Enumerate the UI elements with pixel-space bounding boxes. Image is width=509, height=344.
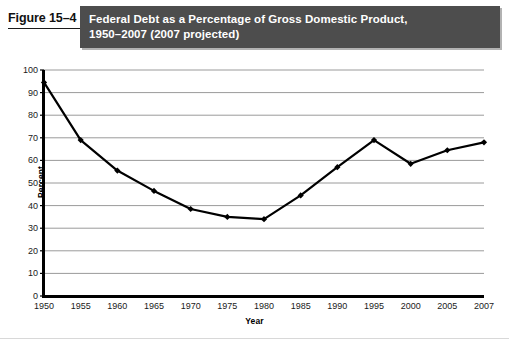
gridlines	[44, 70, 484, 273]
y-tick-label: 0	[33, 291, 38, 301]
x-tick-label: 1960	[107, 301, 127, 311]
y-tick-label: 20	[28, 246, 38, 256]
y-tick-label: 90	[28, 88, 38, 98]
x-tick-label: 1975	[217, 301, 237, 311]
y-tick-label: 30	[28, 223, 38, 233]
figure-title-line-1: Federal Debt as a Percentage of Gross Do…	[89, 13, 407, 25]
x-tick-label: 1995	[364, 301, 384, 311]
data-point-marker	[481, 139, 487, 145]
x-tick-label: 1955	[71, 301, 91, 311]
x-axis-label: Year	[0, 316, 509, 326]
figure-title: Federal Debt as a Percentage of Gross Do…	[89, 12, 494, 42]
figure-title-bar: Federal Debt as a Percentage of Gross Do…	[80, 6, 500, 48]
line-chart: 0102030405060708090100 19501955196019651…	[0, 56, 509, 344]
y-tick-label: 100	[23, 65, 38, 75]
figure-container: Figure 15–4 Federal Debt as a Percentage…	[0, 0, 509, 344]
y-tick-label: 80	[28, 110, 38, 120]
data-point-marker	[224, 214, 230, 220]
footer-divider	[0, 338, 509, 339]
figure-header: Figure 15–4 Federal Debt as a Percentage…	[0, 0, 509, 56]
y-axis-label: Percent	[36, 147, 46, 217]
x-tick-label: 2005	[437, 301, 457, 311]
figure-number-label: Figure 15–4	[8, 11, 80, 26]
y-tick-label: 10	[28, 268, 38, 278]
x-tick-label: 2007	[474, 301, 494, 311]
figure-label-underline	[8, 28, 80, 29]
x-tick-label: 1970	[181, 301, 201, 311]
x-tick-label: 1990	[327, 301, 347, 311]
x-tick-label: 1980	[254, 301, 274, 311]
x-tick-label: 2000	[401, 301, 421, 311]
figure-label-block: Figure 15–4	[8, 11, 80, 29]
data-point-marker	[444, 147, 450, 153]
x-tick-label: 1950	[34, 301, 54, 311]
figure-title-line-2: 1950–2007 (2007 projected)	[89, 27, 494, 42]
x-tick-label: 1965	[144, 301, 164, 311]
data-point-markers	[41, 79, 487, 222]
x-tick-label: 1985	[291, 301, 311, 311]
x-axis-tick-labels: 1950195519601965197019751980198519901995…	[34, 301, 494, 311]
data-series-line	[44, 82, 484, 219]
y-tick-label: 70	[28, 133, 38, 143]
chart-area: 0102030405060708090100 19501955196019651…	[0, 56, 509, 344]
